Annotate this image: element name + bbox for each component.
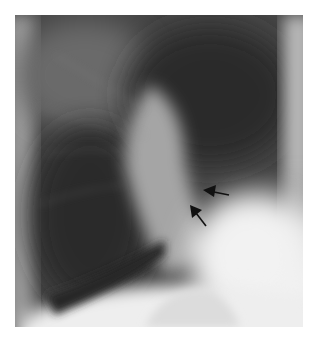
arrow-annotation-2 xyxy=(190,205,206,226)
radiograph-image xyxy=(15,15,303,327)
arrow-annotation-1 xyxy=(203,185,229,197)
